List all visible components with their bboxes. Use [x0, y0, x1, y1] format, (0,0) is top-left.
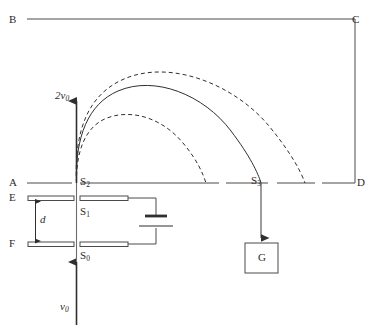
plate-lower-right	[80, 242, 128, 247]
detector-label-G: G	[258, 252, 266, 263]
corner-label-C: C	[352, 14, 359, 25]
slit-label-S2: S2	[80, 176, 90, 187]
middle-solid-trajectory	[76, 85, 261, 183]
plate-E-left	[28, 196, 74, 201]
slit-label-S0-sub: 0	[86, 254, 90, 263]
physics-diagram: B C A D E F d S2 S1 S0 S3 2v0 v0 G	[0, 0, 369, 330]
corner-label-D: D	[357, 177, 365, 188]
outer-dashed-trajectory	[76, 72, 305, 183]
corner-label-A: A	[9, 177, 17, 188]
battery-circuit	[128, 198, 156, 244]
inner-dashed-trajectory	[76, 114, 206, 183]
slit-label-S1-sub: 1	[86, 210, 90, 219]
slit-label-S3: S3	[251, 175, 261, 186]
entry-velocity-label: v0	[60, 301, 69, 312]
plate-separation-label: d	[40, 214, 46, 225]
corner-label-B: B	[9, 14, 16, 25]
diagram-canvas	[0, 0, 369, 330]
slit-label-S0: S0	[80, 250, 90, 261]
slit-label-S1: S1	[80, 206, 90, 217]
plate-upper-right	[80, 196, 128, 201]
exit-velocity-sub: 0	[65, 94, 69, 103]
exit-velocity-label: 2v0	[55, 90, 69, 101]
entry-velocity-sub: 0	[65, 305, 69, 314]
plate-F-left	[28, 242, 74, 247]
exit-velocity-text: 2v	[55, 89, 65, 101]
plate-label-E: E	[9, 192, 16, 203]
slit-label-S3-sub: 3	[257, 179, 261, 188]
slit-label-S2-sub: 2	[86, 180, 90, 189]
battery-symbol	[139, 216, 173, 226]
plate-label-F: F	[9, 238, 15, 249]
